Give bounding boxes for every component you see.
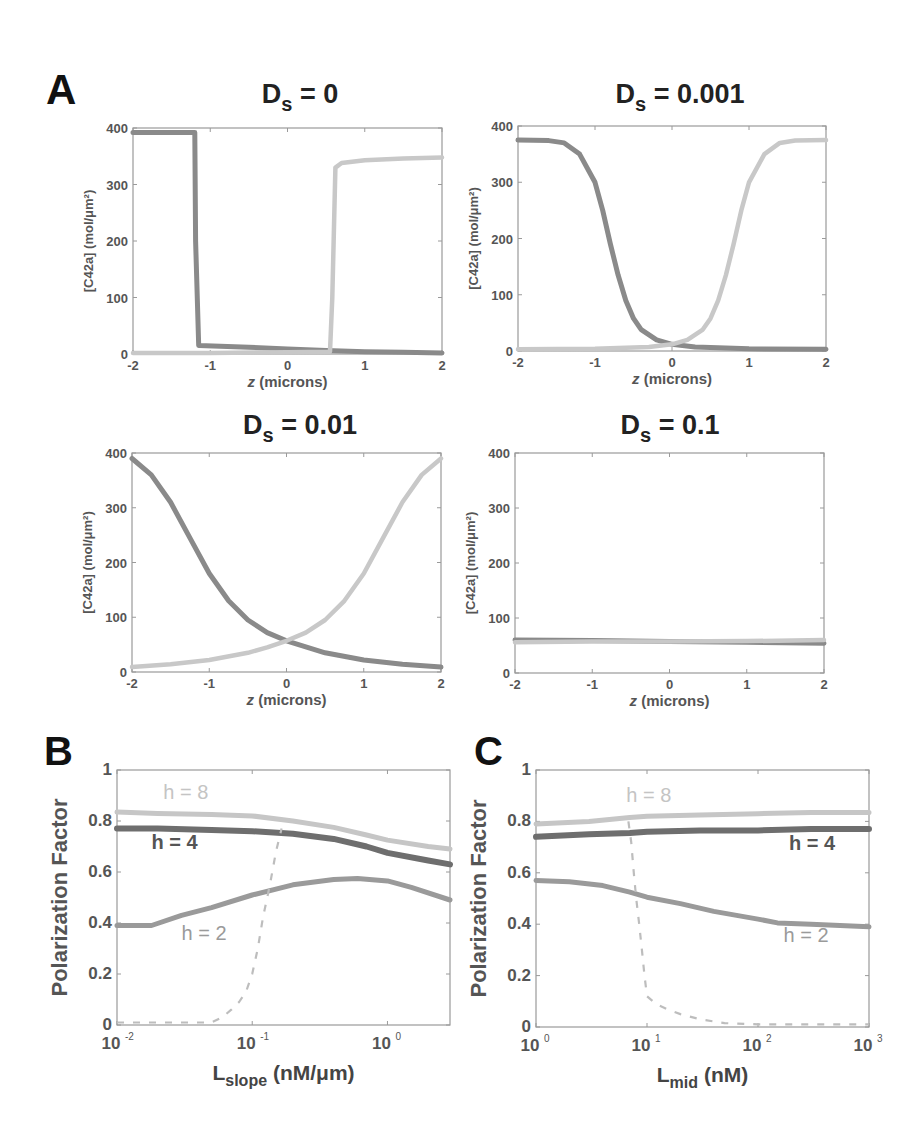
y-axis-label: Polarization Factor: [466, 799, 491, 997]
x-axis-label: Lmid (nM): [657, 1063, 748, 1091]
x-tick-exponent: 0: [395, 1031, 401, 1042]
x-tick-label: 10: [521, 1036, 540, 1055]
panel-label-b: B: [44, 729, 73, 773]
y-tick-label: 0: [522, 1017, 531, 1036]
panel-label-c: C: [474, 729, 503, 773]
series-line: [518, 140, 826, 349]
x-tick-label: -2: [509, 677, 521, 692]
panel-label-a: A: [46, 66, 76, 113]
y-tick-label: 300: [488, 501, 510, 516]
x-tick-label: 2: [437, 676, 444, 691]
x-tick-label: 2: [822, 355, 829, 370]
x-axis-label: z (microns): [631, 370, 712, 387]
y-tick-label: 0.8: [88, 811, 112, 830]
y-tick-label: 200: [491, 232, 513, 247]
x-tick-label: 0: [666, 677, 673, 692]
series-annotation: h = 2: [784, 924, 829, 946]
x-axis-label: z (microns): [246, 373, 327, 390]
y-tick-label: 1: [103, 760, 112, 779]
chart-ds-0-1: 0100200300400-2-1012Ds = 0.1z (microns)[…: [463, 410, 828, 709]
y-tick-label: 400: [488, 446, 510, 461]
chart-title: Ds = 0.01: [243, 410, 357, 446]
y-tick-label: 0.6: [88, 862, 112, 881]
x-tick-label: 10: [372, 1034, 391, 1053]
series-annotation: h = 8: [626, 784, 671, 806]
x-tick-exponent: -2: [125, 1031, 134, 1042]
series-line: [132, 459, 441, 668]
x-tick-label: 0: [284, 358, 291, 373]
y-tick-label: 0.8: [507, 811, 531, 830]
y-tick-label: 1: [522, 760, 531, 779]
chart-ds-0-01: 0100200300400-2-1012Ds = 0.01z (microns)…: [80, 410, 445, 708]
x-tick-label: -1: [204, 358, 216, 373]
y-axis-label: [C42a] (mol/μm²): [466, 187, 481, 290]
y-axis-label: [C42a] (mol/μm²): [80, 511, 95, 614]
x-axis-label: Lslope (nM/μm): [212, 1061, 354, 1089]
chart-polarization-vs-lslope: 00.20.40.60.8110-210-1100h = 8h = 4h = 2…: [47, 760, 450, 1089]
chart-ds-0: 0100200300400-2-1012Ds = 0z (microns)[C4…: [81, 79, 446, 390]
x-tick-label: -1: [586, 677, 598, 692]
chart-polarization-vs-lmid: 00.20.40.60.81100101102103h = 8h = 4h = …: [466, 760, 883, 1091]
x-tick-label: -2: [127, 358, 139, 373]
y-tick-label: 200: [106, 234, 128, 249]
x-tick-exponent: 3: [877, 1033, 883, 1044]
x-tick-label: -2: [126, 676, 138, 691]
x-tick-exponent: -1: [260, 1031, 269, 1042]
y-tick-label: 400: [106, 121, 128, 136]
axes-box: [518, 126, 826, 351]
y-tick-label: 400: [105, 446, 127, 461]
y-axis-label: [C42a] (mol/μm²): [81, 190, 96, 293]
y-axis-label: Polarization Factor: [47, 798, 72, 996]
series-line: [515, 640, 824, 642]
figure: A B C 0100200300400-2-1012Ds = 0z (micro…: [0, 0, 924, 1143]
y-tick-label: 400: [491, 119, 513, 134]
x-tick-label: 10: [743, 1036, 762, 1055]
y-tick-label: 0.2: [507, 966, 531, 985]
y-tick-label: 0.4: [88, 913, 112, 932]
axes-box: [536, 770, 869, 1027]
y-tick-label: 100: [488, 611, 510, 626]
x-tick-label: 0: [283, 676, 290, 691]
series-annotation: h = 4: [152, 831, 199, 853]
series-line: [536, 812, 869, 824]
x-tick-label: 10: [854, 1036, 873, 1055]
y-tick-label: 100: [491, 288, 513, 303]
y-tick-label: 0: [103, 1015, 112, 1034]
x-tick-label: 1: [745, 355, 752, 370]
y-tick-label: 200: [488, 556, 510, 571]
x-tick-label: 10: [632, 1036, 651, 1055]
x-axis-label: z (microns): [245, 691, 326, 708]
x-tick-label: 10: [102, 1034, 121, 1053]
y-tick-label: 300: [106, 178, 128, 193]
chart-ds-0-001: 0100200300400-2-1012Ds = 0.001z (microns…: [466, 79, 830, 387]
x-tick-label: -1: [589, 355, 601, 370]
x-tick-exponent: 0: [544, 1033, 550, 1044]
chart-title: Ds = 0.001: [616, 79, 745, 115]
series-line: [117, 878, 450, 925]
y-tick-label: 300: [491, 175, 513, 190]
y-tick-label: 300: [105, 501, 127, 516]
chart-title: Ds = 0: [262, 79, 338, 115]
series-annotation: h = 4: [789, 832, 836, 854]
series-line: [133, 157, 442, 353]
figure-canvas: A B C 0100200300400-2-1012Ds = 0z (micro…: [0, 0, 924, 1143]
y-axis-label: [C42a] (mol/μm²): [463, 512, 478, 615]
series-line: [518, 140, 826, 349]
x-tick-exponent: 2: [766, 1033, 772, 1044]
series-line: [133, 133, 442, 353]
axes-box: [133, 128, 442, 354]
x-tick-label: 2: [438, 358, 445, 373]
x-tick-label: 0: [668, 355, 675, 370]
y-tick-label: 200: [105, 556, 127, 571]
series-line: [132, 459, 441, 668]
x-tick-label: 2: [820, 677, 827, 692]
x-tick-label: -1: [203, 676, 215, 691]
x-tick-label: 10: [237, 1034, 256, 1053]
y-tick-label: 0.4: [507, 914, 531, 933]
y-tick-label: 0.2: [88, 964, 112, 983]
y-tick-label: 100: [105, 610, 127, 625]
y-tick-label: 100: [106, 291, 128, 306]
x-tick-label: 1: [743, 677, 750, 692]
x-axis-label: z (microns): [628, 692, 709, 709]
series-annotation: h = 2: [182, 922, 227, 944]
